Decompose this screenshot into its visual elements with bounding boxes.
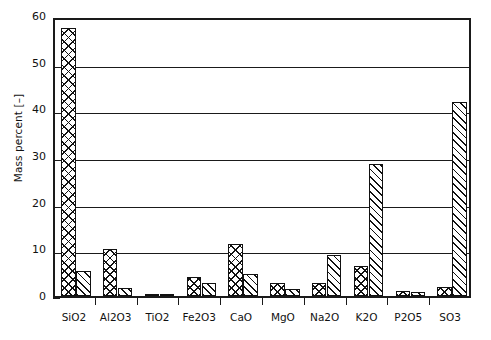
x-tick bbox=[346, 298, 347, 305]
y-tick-label: 50 bbox=[4, 57, 46, 70]
x-tick bbox=[220, 298, 221, 305]
bar bbox=[369, 164, 384, 296]
x-tick bbox=[429, 298, 430, 305]
x-tick bbox=[178, 298, 179, 305]
bar bbox=[160, 294, 175, 296]
bar bbox=[327, 255, 342, 296]
bar bbox=[202, 283, 217, 296]
bar bbox=[228, 244, 243, 296]
y-tick-label: 0 bbox=[4, 290, 46, 303]
y-tick-label: 20 bbox=[4, 197, 46, 210]
x-tick-label: P2O5 bbox=[387, 311, 429, 323]
x-tick-label: K2O bbox=[346, 311, 388, 323]
bar bbox=[396, 291, 411, 296]
x-tick-label: SiO2 bbox=[53, 311, 95, 323]
x-tick bbox=[304, 298, 305, 305]
y-tick-label: 30 bbox=[4, 150, 46, 163]
x-tick-label: TiO2 bbox=[137, 311, 179, 323]
bar bbox=[312, 283, 327, 296]
x-tick bbox=[137, 298, 138, 305]
bar bbox=[103, 249, 118, 296]
x-tick bbox=[262, 298, 263, 305]
bar bbox=[118, 288, 133, 296]
bar bbox=[354, 266, 369, 296]
bar bbox=[187, 277, 202, 296]
x-tick-label: Al2O3 bbox=[95, 311, 137, 323]
x-tick-label: Fe2O3 bbox=[178, 311, 220, 323]
gridline bbox=[55, 207, 469, 208]
gridline bbox=[55, 113, 469, 114]
y-axis-title: Mass percent [–] bbox=[12, 68, 24, 208]
bar bbox=[411, 292, 426, 296]
plot-area bbox=[53, 18, 471, 298]
x-tick-label: MgO bbox=[262, 311, 304, 323]
bar bbox=[243, 274, 258, 296]
x-tick-label: SO3 bbox=[429, 311, 471, 323]
y-tick-label: 10 bbox=[4, 243, 46, 256]
y-tick-label: 40 bbox=[4, 103, 46, 116]
x-tick bbox=[95, 298, 96, 305]
bar bbox=[145, 294, 160, 296]
bar bbox=[285, 289, 300, 296]
x-tick-label: Na2O bbox=[304, 311, 346, 323]
y-tick-major bbox=[53, 298, 60, 299]
bar bbox=[61, 28, 76, 296]
gridline bbox=[55, 160, 469, 161]
bar-chart: Mass percent [–] 0102030405060 SiO2Al2O3… bbox=[0, 0, 491, 340]
gridline bbox=[55, 67, 469, 68]
x-tick bbox=[387, 298, 388, 305]
x-tick-label: CaO bbox=[220, 311, 262, 323]
bar bbox=[76, 271, 91, 296]
y-tick-label: 60 bbox=[4, 10, 46, 23]
bar bbox=[270, 283, 285, 296]
bar bbox=[437, 287, 452, 296]
bar bbox=[452, 102, 467, 296]
